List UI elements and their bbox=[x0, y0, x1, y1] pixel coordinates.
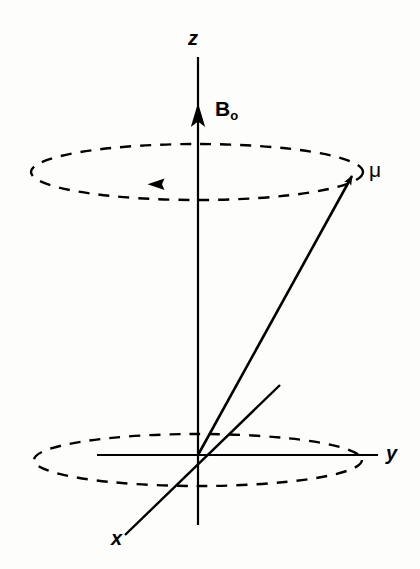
b0-field-subscript: o bbox=[230, 108, 238, 123]
x-axis-line bbox=[125, 385, 280, 535]
magnetic-moment-label: μ bbox=[369, 159, 381, 180]
precession-diagram bbox=[0, 0, 420, 569]
figure-canvas: z y x Bo μ bbox=[0, 0, 420, 569]
b0-field-symbol: B bbox=[215, 97, 230, 120]
magnetic-moment-vector bbox=[198, 176, 352, 455]
precession-direction-arrowhead bbox=[148, 178, 165, 190]
x-axis-label: x bbox=[111, 528, 122, 548]
z-axis-label: z bbox=[188, 28, 198, 48]
b0-field-label: Bo bbox=[215, 98, 238, 119]
y-axis-label: y bbox=[386, 443, 397, 463]
